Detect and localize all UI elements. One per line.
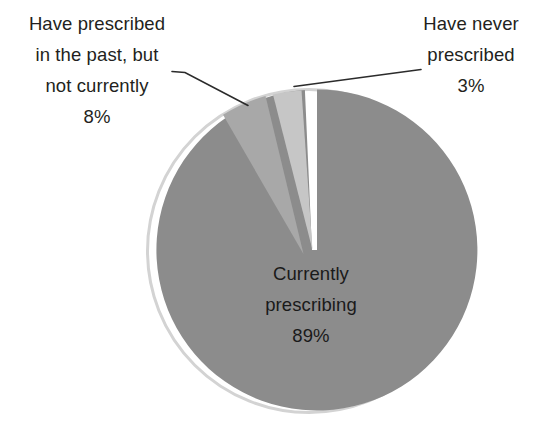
pie-value-prescribed-in-past: 8% [4, 101, 190, 132]
pie-value-have-never-prescribed: 3% [398, 70, 544, 101]
pie-label-prescribed-in-past-line3: not currently [4, 70, 190, 101]
pie-label-currently-prescribing-line2: prescribing [232, 289, 390, 320]
pie-label-currently-prescribing: Currently prescribing 89% [232, 258, 390, 351]
pie-label-currently-prescribing-line1: Currently [232, 258, 390, 289]
pie-slice-currently-prescribing[interactable] [156, 90, 477, 411]
pie-label-prescribed-in-past-line1: Have prescribed [4, 8, 190, 39]
pie-label-prescribed-in-past: Have prescribed in the past, but not cur… [4, 8, 190, 132]
pie-value-currently-prescribing: 89% [232, 320, 390, 351]
pie-chart: Have prescribed in the past, but not cur… [0, 0, 544, 439]
pie-label-have-never-prescribed: Have never prescribed 3% [398, 8, 544, 101]
pie-label-have-never-prescribed-line2: prescribed [398, 39, 544, 70]
pie-label-have-never-prescribed-line1: Have never [398, 8, 544, 39]
pie-label-prescribed-in-past-line2: in the past, but [4, 39, 190, 70]
